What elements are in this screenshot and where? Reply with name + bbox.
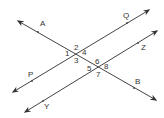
lines-layer	[13, 10, 157, 112]
angle-label-6: 6	[95, 57, 100, 66]
point-label-a: A	[40, 19, 46, 28]
angle-label-5: 5	[87, 64, 92, 73]
angle-label-3: 3	[74, 56, 79, 65]
point-b-dot	[133, 87, 135, 89]
points-layer	[31, 22, 139, 102]
angle-label-4: 4	[82, 48, 87, 57]
angle-label-1: 1	[65, 49, 70, 58]
point-a-dot	[37, 31, 39, 33]
point-label-y: Y	[44, 102, 50, 111]
line-AB	[18, 21, 156, 100]
line-PQ	[13, 10, 149, 92]
point-label-p: P	[28, 70, 33, 79]
angle-label-2: 2	[74, 43, 79, 52]
point-p-dot	[31, 80, 33, 82]
point-label-q: Q	[123, 11, 129, 20]
point-z-dot	[137, 42, 139, 44]
point-q-dot	[126, 22, 128, 24]
point-label-z: Z	[141, 43, 146, 52]
geometry-diagram: AQPZBY 12345678	[0, 0, 164, 118]
angle-label-7: 7	[96, 70, 101, 79]
angle-label-8: 8	[104, 62, 109, 71]
point-label-b: B	[135, 77, 140, 86]
